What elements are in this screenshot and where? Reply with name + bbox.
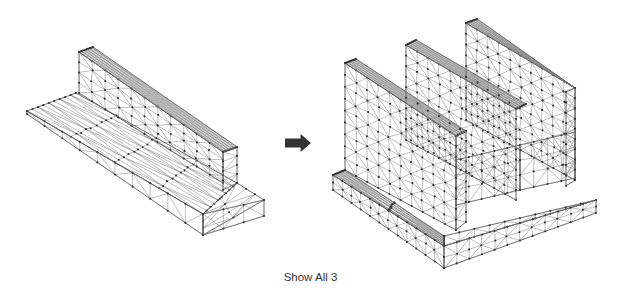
mesh-figure [0, 0, 621, 294]
flange-top-right [202, 182, 265, 236]
base-top-left [332, 169, 445, 247]
t-section-mesh [26, 46, 265, 236]
show-all-link[interactable]: Show All 3 [0, 271, 621, 283]
base-front-left [332, 174, 445, 269]
triple-wall-mesh [332, 18, 597, 269]
right-arrow-icon [285, 134, 311, 152]
